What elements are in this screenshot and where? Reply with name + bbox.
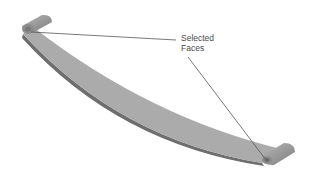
leaf-spring-drawing: [0, 0, 313, 178]
spring-face: [23, 27, 285, 163]
figure-canvas: Selected Faces: [0, 0, 313, 178]
callout-line-2: Faces: [181, 43, 214, 53]
callout-line-1: Selected: [181, 33, 214, 43]
leader-line-left: [31, 32, 176, 40]
callout-label: Selected Faces: [181, 33, 214, 53]
